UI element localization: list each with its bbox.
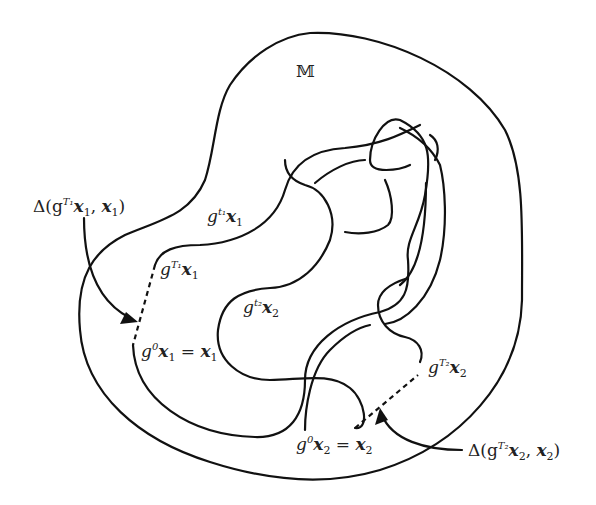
label-gt1x1: gt₁x1 (207, 206, 243, 229)
label-delta1: Δ(gT₁x1, x1) (33, 196, 125, 219)
label-gT1x1: gT₁x1 (160, 259, 199, 282)
arrow-2 (382, 415, 462, 450)
label-g0x1: g0x1 = x1 (141, 341, 218, 364)
arrow-1 (84, 218, 130, 318)
trajectory-2-mid (305, 325, 370, 430)
trajectory-misc-2 (315, 160, 365, 183)
trajectory-2 (218, 160, 364, 428)
phase-space-diagram: 𝕄 Δ(gT₁x1, x1) gt₁x1 gT₁x1 gt₂x2 g0x1 = … (0, 0, 596, 505)
trajectory-misc-1 (345, 180, 392, 233)
label-g0x2: g0x2 = x2 (296, 434, 373, 457)
manifold-label: 𝕄 (296, 61, 315, 81)
label-gt2x2: gt₂x2 (243, 297, 279, 320)
manifold-boundary (79, 33, 522, 480)
label-gT2x2: gT₂x2 (428, 357, 467, 380)
label-delta2: Δ(gT₂x2, x2) (468, 440, 560, 463)
gap-dashed-1 (133, 265, 155, 345)
trajectory-1 (133, 119, 428, 437)
trajectory-1-end (155, 125, 420, 265)
